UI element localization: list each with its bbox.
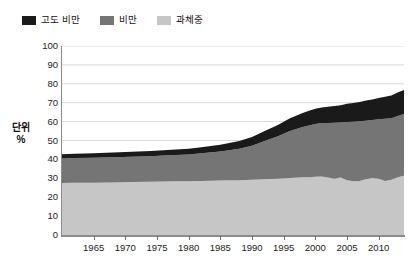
legend-label-severe-obesity: 고도 비만 — [41, 15, 80, 25]
legend-item-severe-obesity: 고도 비만 — [22, 15, 80, 25]
obesity-trend-area-chart: 고도 비만 비만 과체중 단위 % 1009080706050403020100… — [0, 0, 415, 262]
legend-swatch-overweight — [157, 16, 171, 25]
x-tick-1985 — [220, 236, 221, 240]
area-series-group — [62, 90, 404, 235]
y-axis-tick-labels: 1009080706050403020100 — [28, 46, 58, 235]
y-tick-label-40: 40 — [28, 154, 58, 164]
legend-label-overweight: 과체중 — [176, 15, 203, 25]
x-tick-1990 — [252, 236, 253, 240]
x-tick-1980 — [189, 236, 190, 240]
plot-area — [62, 46, 404, 235]
x-tick-label-2010: 2010 — [359, 242, 399, 253]
legend-label-obesity: 비만 — [119, 15, 137, 25]
y-tick-label-80: 80 — [28, 79, 58, 89]
stacked-area-svg — [62, 46, 404, 235]
legend-item-obesity: 비만 — [100, 15, 137, 25]
y-tick-label-60: 60 — [28, 117, 58, 127]
legend-swatch-severe-obesity — [22, 16, 36, 25]
x-tick-1995 — [284, 236, 285, 240]
y-tick-label-70: 70 — [28, 98, 58, 108]
y-tick-label-10: 10 — [28, 211, 58, 221]
y-tick-label-50: 50 — [28, 136, 58, 146]
x-tick-1975 — [157, 236, 158, 240]
y-tick-label-30: 30 — [28, 173, 58, 183]
x-axis-tick-labels: 1965197019751980198519901995200020052010 — [62, 242, 404, 256]
x-tick-2000 — [315, 236, 316, 240]
y-tick-label-20: 20 — [28, 192, 58, 202]
x-tick-1970 — [125, 236, 126, 240]
x-tick-1965 — [94, 236, 95, 240]
area-series-0 — [62, 176, 404, 235]
y-tick-label-0: 0 — [28, 230, 58, 240]
x-tick-2005 — [347, 236, 348, 240]
x-axis-ticks — [62, 236, 404, 241]
x-tick-2010 — [379, 236, 380, 240]
chart-legend: 고도 비만 비만 과체중 — [22, 13, 203, 27]
legend-swatch-obesity — [100, 16, 114, 25]
y-tick-label-90: 90 — [28, 60, 58, 70]
y-tick-label-100: 100 — [28, 41, 58, 51]
legend-item-overweight: 과체중 — [157, 15, 203, 25]
